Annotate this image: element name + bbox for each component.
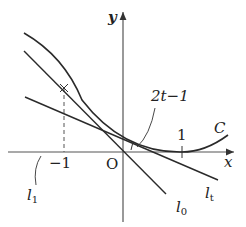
curve-c-label: C [214,121,225,136]
l1-pointer [35,156,41,185]
tick-label-1: 1 [177,128,187,143]
line-lt-label: lt [205,186,214,203]
annotation-pointer [137,108,155,147]
diagram: y x O −1 1 C 2t−1 l1 lt l0 [0,0,246,227]
line-l0-label: l0 [176,200,187,217]
curve-c [24,33,228,152]
x-axis-label: x [224,155,232,170]
y-axis-label: y [108,10,117,25]
annotation-2t-1: 2t−1 [151,89,189,104]
line-l1-label: l1 [27,188,38,205]
tick-label-neg1: −1 [49,156,71,171]
origin-label: O [106,157,118,172]
line-l0 [24,51,166,194]
